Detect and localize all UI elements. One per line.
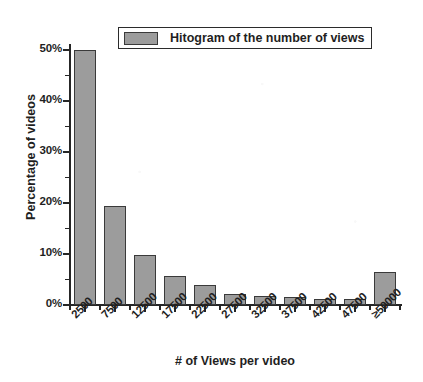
x-tick-label: 22500 bbox=[189, 290, 219, 320]
x-axis-title: # of Views per video bbox=[70, 354, 400, 368]
x-tick-label: 32500 bbox=[249, 290, 279, 320]
legend-label: Hitogram of the number of views bbox=[170, 31, 364, 45]
x-tick-label: 27500 bbox=[219, 290, 249, 320]
chart-legend: Hitogram of the number of views bbox=[118, 27, 372, 49]
legend-swatch-icon bbox=[124, 32, 158, 45]
x-tick-label: 2500 bbox=[69, 295, 95, 321]
x-tick-label: 17500 bbox=[159, 290, 189, 320]
x-tick-label: 47500 bbox=[339, 290, 369, 320]
x-tick-label: ≥50000 bbox=[369, 286, 403, 320]
x-tick-label: 42500 bbox=[309, 290, 339, 320]
x-tick-label: 37500 bbox=[279, 290, 309, 320]
x-axis-tick-labels: 2500750012500175002250027500325003750042… bbox=[0, 0, 423, 382]
histogram-figure: Percentage of videos 0%10%20%30%40%50% 2… bbox=[0, 0, 423, 382]
x-tick-label: 12500 bbox=[129, 290, 159, 320]
x-tick-label: 7500 bbox=[99, 295, 125, 321]
